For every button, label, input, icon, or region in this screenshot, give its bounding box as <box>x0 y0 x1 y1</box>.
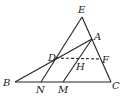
point-label-c: C <box>112 80 120 91</box>
point-label-n: N <box>35 84 46 95</box>
point-label-f: F <box>101 54 110 65</box>
point-label-b: B <box>2 77 10 88</box>
point-label-m: M <box>57 84 69 95</box>
segments <box>15 17 111 82</box>
segment-df <box>56 58 101 59</box>
point-label-d: D <box>47 52 56 63</box>
segment-en <box>41 17 82 82</box>
segment-ec <box>82 17 111 82</box>
point-label-h: H <box>75 61 85 72</box>
point-label-e: E <box>77 4 86 15</box>
point-label-a: A <box>93 31 101 42</box>
geometry-figure: EADFHBNMC <box>0 0 130 102</box>
